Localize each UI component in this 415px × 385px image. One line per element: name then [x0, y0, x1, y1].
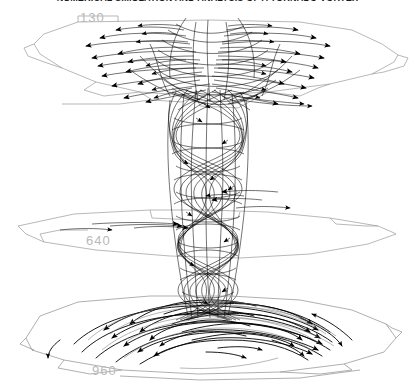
upper-canopy-boundary: [24, 16, 408, 108]
tornado-vortex-figure: NUMERICAL SIMULATION AND ANALYSIS OF A T…: [0, 0, 415, 385]
helical-vortex-funnel: [168, 88, 248, 320]
level-label-lower: 960: [92, 363, 117, 378]
level-label-middle: 640: [86, 233, 111, 248]
surface-plane-boundary: [20, 296, 402, 380]
vector-field-plot: 130 640 960: [0, 0, 415, 385]
upper-outflow-streamlines: [86, 18, 330, 110]
level-label-upper: 130: [80, 10, 105, 25]
mid-level-boundary: [18, 210, 396, 258]
